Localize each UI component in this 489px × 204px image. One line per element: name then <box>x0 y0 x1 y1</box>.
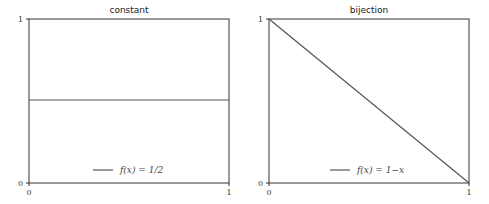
plot-title: bijection <box>350 5 388 15</box>
y-tick-label: 0 <box>18 179 23 188</box>
x-tick-label: 0 <box>26 188 31 197</box>
axes-frame <box>29 19 229 183</box>
y-tick-label: 0 <box>258 179 263 188</box>
y-tick-label: 1 <box>258 15 263 24</box>
figure: constant 1 0 0 1 f(x) = 1/2 bijection 1 … <box>0 0 489 204</box>
plot-bijection: bijection 1 0 0 1 f(x) = 1−x <box>258 5 472 197</box>
legend-label: f(x) = 1−x <box>356 165 404 175</box>
plot-title: constant <box>109 5 149 15</box>
y-tick-label: 1 <box>18 15 23 24</box>
legend: f(x) = 1−x <box>330 165 404 175</box>
legend-label: f(x) = 1/2 <box>119 165 163 175</box>
x-tick-label: 1 <box>466 188 471 197</box>
plot-constant: constant 1 0 0 1 f(x) = 1/2 <box>18 5 232 197</box>
series-line <box>269 19 469 183</box>
x-tick-label: 1 <box>226 188 231 197</box>
x-tick-label: 0 <box>266 188 271 197</box>
legend: f(x) = 1/2 <box>93 165 163 175</box>
